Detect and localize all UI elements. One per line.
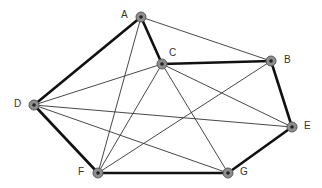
node-core-e	[290, 125, 294, 129]
edge-d-g	[34, 105, 228, 173]
node-label-c: C	[169, 48, 176, 58]
node-label-g: G	[240, 167, 248, 177]
node-core-f	[96, 171, 100, 175]
edge-d-c	[34, 64, 162, 105]
edge-a-b	[141, 17, 271, 61]
edge-f-d	[34, 105, 98, 173]
node-label-e: E	[304, 121, 311, 131]
thick-edges	[34, 17, 292, 173]
node-core-g	[226, 171, 230, 175]
node-label-b: B	[284, 55, 291, 65]
node-core-d	[32, 103, 36, 107]
edge-c-b	[162, 61, 271, 64]
thin-edges	[34, 17, 292, 173]
node-label-d: D	[14, 99, 21, 109]
node-label-a: A	[121, 10, 128, 20]
node-core-b	[269, 59, 273, 63]
edge-f-c	[98, 64, 162, 173]
edge-a-c	[141, 17, 162, 64]
edge-a-d	[34, 17, 141, 105]
edge-e-g	[228, 127, 292, 173]
node-core-a	[139, 15, 143, 19]
node-label-f: F	[78, 167, 84, 177]
graph-diagram	[0, 0, 322, 188]
node-core-c	[160, 62, 164, 66]
edge-b-e	[271, 61, 292, 127]
